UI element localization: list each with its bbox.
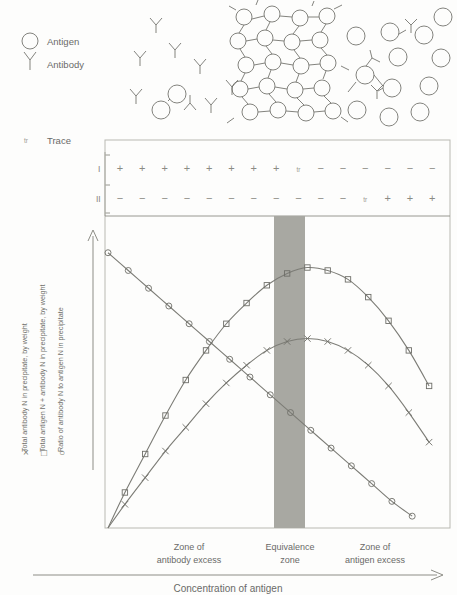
marker-series-1-point-5	[203, 400, 209, 406]
sign-row-I-cell-10: −	[340, 162, 346, 174]
antigen-antibody-precipitin-figure: Antigen Antibody tr Trace	[0, 0, 457, 595]
sign-row-II-cell-0: −	[117, 192, 123, 204]
marker-series-1-point-15	[406, 409, 412, 415]
sign-row-I-cell-11: −	[362, 162, 368, 174]
supernatant-rows: I II ++++++++tr−−−−−−−−−−−−−−−−−tr+++	[96, 162, 435, 204]
legend-antibody: Antibody	[24, 52, 84, 70]
x-axis-arrow	[33, 570, 443, 580]
sign-row-II-cell-14: +	[429, 192, 435, 204]
zone-2-line2: antigen excess	[345, 555, 406, 565]
zone-0-line2: antibody excess	[157, 555, 222, 565]
zone-labels: Zone of antibody excess Equivalence zone…	[157, 542, 406, 565]
curve-series-2	[108, 253, 412, 516]
sign-row-I-cell-0: +	[117, 162, 123, 174]
sign-row-II-cell-4: −	[206, 192, 212, 204]
marker-series-1-point-16	[426, 439, 432, 445]
series-legend-symbol-2: ○	[59, 447, 65, 458]
sign-row-I-cell-1: +	[139, 162, 145, 174]
series-legend-symbol-1: □	[41, 447, 47, 458]
legend-trace: tr Trace	[24, 135, 71, 146]
marker-series-1-point-11	[325, 338, 331, 344]
marker-series-1-point-12	[345, 347, 351, 353]
legend-antigen-label: Antigen	[47, 36, 79, 47]
sign-row-II-cell-11: tr	[363, 196, 368, 203]
series-legend-symbol-0: ×	[23, 447, 29, 458]
marker-series-1-point-6	[223, 380, 229, 386]
illustration-antibody-excess	[130, 18, 238, 119]
equivalence-band	[274, 216, 305, 528]
sign-row-II-cell-9: −	[317, 192, 323, 204]
illustration-antigen-excess	[341, 8, 452, 126]
sign-row-I-cell-12: −	[384, 162, 390, 174]
marker-series-1-point-7	[243, 362, 249, 368]
sign-row-II-cell-2: −	[161, 192, 167, 204]
marker-series-1-point-4	[183, 424, 189, 430]
sign-row-II-cell-5: −	[228, 192, 234, 204]
trace-label: Trace	[47, 135, 71, 146]
row-label-II: II	[96, 194, 101, 204]
sign-row-II-cell-12: +	[384, 192, 390, 204]
illustration-equivalence-lattice	[227, 0, 348, 123]
series-legend: Total antibody N in precipitate, by weig…	[20, 284, 65, 458]
series-legend-label-2: Ratio of antibody N to antigen N in prec…	[56, 307, 65, 452]
curve-group	[105, 250, 432, 528]
trace-symbol: tr	[24, 137, 29, 144]
sign-row-I-cell-13: −	[407, 162, 413, 174]
sign-row-I-cell-6: +	[251, 162, 257, 174]
sign-row-I-cell-4: +	[206, 162, 212, 174]
sign-row-I-cell-3: +	[184, 162, 190, 174]
sign-row-I-cell-2: +	[161, 162, 167, 174]
series-legend-label-1: Total antigen N + antibody N in precipit…	[38, 284, 47, 452]
sign-row-II-cell-8: −	[295, 192, 301, 204]
marker-series-1-point-14	[385, 383, 391, 389]
marker-series-1-point-8	[264, 347, 270, 353]
sign-row-I-cell-9: −	[317, 162, 323, 174]
sign-row-II-cell-1: −	[139, 192, 145, 204]
sign-row-I-cell-14: −	[429, 162, 435, 174]
sign-row-II-cell-6: −	[251, 192, 257, 204]
sign-row-II-cell-10: −	[340, 192, 346, 204]
zone-1-line2: zone	[280, 555, 300, 565]
zone-0-line1: Zone of	[174, 542, 205, 552]
marker-series-1-point-3	[162, 448, 168, 454]
marker-series-1-point-13	[365, 362, 371, 368]
zone-1-line1: Equivalence	[265, 542, 314, 552]
sign-row-II-cell-13: +	[407, 192, 413, 204]
marker-series-1-point-1	[122, 501, 128, 507]
sign-row-I-cell-5: +	[228, 162, 234, 174]
sign-row-II-cell-3: −	[184, 192, 190, 204]
marker-series-1-point-2	[142, 474, 148, 480]
zone-2-line1: Zone of	[360, 542, 391, 552]
row-label-I: I	[98, 164, 100, 174]
legend-antigen: Antigen	[22, 33, 79, 49]
series-legend-label-0: Total antibody N in precipitate, by weig…	[20, 323, 29, 452]
sign-row-II-cell-7: −	[273, 192, 279, 204]
sign-row-I-cell-8: tr	[296, 166, 301, 173]
y-axis-arrow	[88, 230, 98, 470]
legend-antibody-label: Antibody	[47, 59, 84, 70]
sign-row-I-cell-7: +	[273, 162, 279, 174]
x-axis-title: Concentration of antigen	[174, 583, 283, 594]
